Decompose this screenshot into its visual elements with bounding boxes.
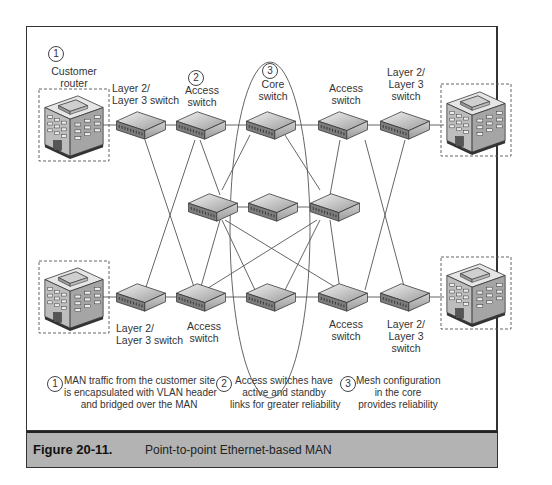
switch-core-mid <box>248 194 297 221</box>
customer-building-top-left <box>45 96 103 159</box>
note-marker-1: 1 <box>47 376 63 392</box>
switch-access-top-right <box>318 112 367 139</box>
figure-title: Point-to-point Ethernet-based MAN <box>145 443 332 457</box>
switch-l2l3-top-left <box>116 112 165 139</box>
switch-access-mid-right <box>310 194 359 221</box>
customer-building-bottom-left <box>45 268 103 331</box>
label-core-switch: Core switch <box>254 78 292 102</box>
label-l2l3-bottom-right: Layer 2/ Layer 3 switch <box>382 318 430 354</box>
note-2-text: Access switches have active and standby … <box>230 375 338 411</box>
customer-building-top-right <box>447 92 505 155</box>
figure-caption: Figure 20-11. Point-to-point Ethernet-ba… <box>26 431 498 468</box>
label-l2l3-top-right: Layer 2/ Layer 3 switch <box>382 66 430 102</box>
label-l2l3-top-left: Layer 2/ Layer 3 switch <box>112 82 180 106</box>
label-customer-router: Customer router <box>44 65 104 89</box>
marker-3: 3 <box>262 63 278 79</box>
customer-building-bottom-right <box>447 264 505 327</box>
figure-number: Figure 20-11. <box>33 442 112 457</box>
switch-access-bottom-right <box>318 284 367 311</box>
switch-l2l3-bottom-right <box>380 284 429 311</box>
label-access-bottom-left: Access switch <box>182 320 226 344</box>
switch-core-top <box>246 112 295 139</box>
note-1-text: MAN traffic from the customer site is en… <box>64 375 214 411</box>
note-3-text: Mesh configuration in the core provides … <box>356 375 440 411</box>
switch-access-top-left <box>176 112 225 139</box>
switch-l2l3-bottom-left <box>116 284 165 311</box>
note-marker-3: 3 <box>340 376 356 392</box>
label-l2l3-bottom-left: Layer 2/ Layer 3 switch <box>116 322 184 346</box>
switch-l2l3-top-right <box>380 112 429 139</box>
label-access-bottom-right: Access switch <box>324 318 368 342</box>
label-access-top-left: Access switch <box>180 84 224 108</box>
switch-access-bottom-left <box>176 284 225 311</box>
marker-1: 1 <box>48 46 64 62</box>
label-access-top-right: Access switch <box>324 82 368 106</box>
